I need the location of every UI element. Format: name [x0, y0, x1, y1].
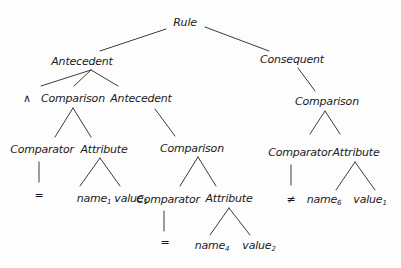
tree-node-name1: name1: [77, 192, 112, 206]
tree-edge: [336, 162, 355, 190]
tree-node-rule: Rule: [173, 16, 197, 29]
node-label: Comparison: [295, 95, 359, 108]
tree-edge: [310, 111, 325, 134]
tree-node-comp2: Comparison: [160, 142, 224, 155]
node-label: name: [77, 192, 107, 205]
tree-node-name4: name4: [195, 239, 230, 253]
node-subscript: 4: [225, 245, 229, 253]
tree-edge: [355, 162, 375, 190]
tree-node-eq1: =: [34, 189, 43, 202]
node-label: Consequent: [260, 53, 324, 66]
node-subscript: 1: [107, 198, 111, 206]
tree-node-value2: value2: [242, 239, 275, 253]
tree-node-ant1: Antecedent: [51, 55, 112, 68]
tree-node-comp1: Comparison: [41, 92, 105, 105]
tree-edge: [100, 158, 120, 186]
tree-node-cmpr1: Comparator: [10, 143, 74, 156]
tree-edge: [298, 68, 315, 91]
node-label: value: [353, 193, 382, 206]
tree-node-and: ∧: [23, 92, 31, 105]
node-label: =: [160, 236, 169, 249]
tree-edge: [325, 111, 340, 134]
node-label: name: [195, 239, 225, 252]
node-label: Comparator: [136, 193, 200, 206]
tree-node-attr2: Attribute: [206, 192, 253, 205]
tree-node-attr1: Attribute: [81, 143, 128, 156]
tree-edge: [100, 29, 166, 51]
tree-edge: [73, 108, 91, 137]
tree-node-cmpr2: Comparator: [136, 193, 200, 206]
tree-node-eq2: =: [160, 236, 169, 249]
tree-edge: [180, 157, 198, 186]
node-label: ≠: [286, 193, 295, 206]
tree-edge: [41, 70, 91, 86]
tree-edge: [229, 208, 250, 235]
node-label: Attribute: [333, 146, 380, 159]
tree-edge: [205, 27, 269, 51]
node-subscript: 6: [337, 199, 341, 207]
node-label: Comparison: [160, 142, 224, 155]
node-label: =: [34, 189, 43, 202]
tree-node-neq: ≠: [286, 193, 295, 206]
node-label: Antecedent: [110, 92, 171, 105]
node-label: value: [242, 239, 271, 252]
node-label: Comparator: [10, 143, 74, 156]
tree-node-comp3: Comparison: [295, 95, 359, 108]
tree-node-cmpr3: Comparator: [268, 146, 332, 159]
node-label: name: [307, 193, 337, 206]
tree-edge: [198, 157, 216, 186]
node-label: Comparison: [41, 92, 105, 105]
node-label: Rule: [173, 16, 197, 29]
tree-node-attr3: Attribute: [333, 146, 380, 159]
tree-node-cons: Consequent: [260, 53, 324, 66]
node-subscript: 2: [271, 245, 275, 253]
tree-node-name6: name6: [307, 193, 342, 207]
tree-edge: [91, 70, 118, 86]
tree-edge: [210, 208, 229, 235]
node-label: Attribute: [206, 192, 253, 205]
node-label: Attribute: [81, 143, 128, 156]
node-subscript: 1: [382, 199, 386, 207]
tree-node-ant2: Antecedent: [110, 92, 171, 105]
tree-edges: [0, 0, 401, 268]
tree-edge: [155, 109, 175, 136]
node-label: ∧: [23, 92, 31, 105]
node-label: Comparator: [268, 146, 332, 159]
tree-edge: [55, 108, 73, 137]
tree-edge: [80, 158, 100, 186]
tree-node-value1b: value1: [353, 193, 386, 207]
node-label: Antecedent: [51, 55, 112, 68]
parse-tree-diagram: RuleAntecedentConsequent∧ComparisonAntec…: [0, 0, 401, 268]
